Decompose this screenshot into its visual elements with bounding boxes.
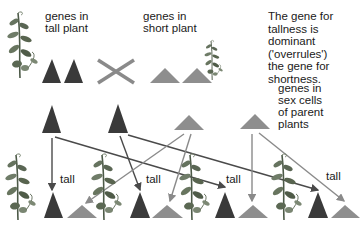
- cross-icon: [98, 60, 134, 83]
- dominant-gene-icon: [42, 59, 61, 83]
- offspring-plant-icon: [4, 154, 36, 220]
- dominant-gene-icon: [64, 59, 83, 83]
- tall-plant-genes-label: genes in tall plant: [45, 10, 88, 34]
- offspring-label: tall: [326, 170, 341, 182]
- short-plant-icon: [204, 40, 223, 80]
- offspring-label: tall: [60, 173, 75, 185]
- offspring-plant-icon: [178, 154, 210, 220]
- dominance-note: The gene for tallness is dominant ('over…: [268, 10, 333, 86]
- offspring-label: tall: [226, 173, 241, 185]
- offspring-label: tall: [146, 173, 161, 185]
- offspring-plant-icon: [90, 154, 122, 220]
- tall-plant-icon: [6, 12, 38, 78]
- recessive-gene-icon: [182, 68, 212, 83]
- recessive-gene-icon: [150, 68, 180, 83]
- sex-cell-genes-label: genes in sex cells of parent plants: [278, 82, 323, 130]
- short-plant-genes-label: genes in short plant: [143, 10, 197, 34]
